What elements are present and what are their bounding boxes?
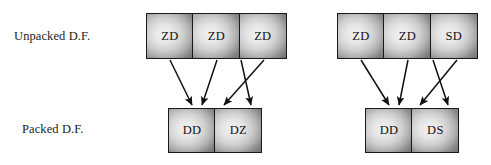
data-cell-label: DS bbox=[427, 123, 444, 138]
data-cell: DZ bbox=[214, 108, 262, 153]
data-cell-label: SD bbox=[446, 29, 463, 44]
data-cell: SD bbox=[430, 13, 478, 59]
data-cell: ZD bbox=[239, 13, 287, 59]
data-cell: DD bbox=[168, 108, 216, 153]
data-cell: DD bbox=[365, 108, 413, 153]
data-cell: ZD bbox=[146, 13, 194, 59]
unpacked-row-right-group: ZD ZD SD bbox=[337, 13, 478, 59]
data-cell-label: ZD bbox=[208, 29, 225, 44]
data-cell: ZD bbox=[383, 13, 431, 59]
data-cell: ZD bbox=[337, 13, 385, 59]
packing-arrows bbox=[170, 60, 457, 105]
packing-arrow bbox=[361, 60, 389, 105]
data-cell-label: DD bbox=[380, 123, 399, 138]
data-cell-label: ZD bbox=[352, 29, 369, 44]
data-cell-label: DZ bbox=[230, 123, 247, 138]
packing-arrow bbox=[433, 60, 448, 105]
data-cell-label: ZD bbox=[254, 29, 271, 44]
data-cell-label: ZD bbox=[399, 29, 416, 44]
packing-arrow bbox=[224, 60, 264, 105]
data-cell-label: ZD bbox=[161, 29, 178, 44]
packing-arrow bbox=[170, 60, 192, 105]
data-cell: ZD bbox=[192, 13, 240, 59]
row-label-unpacked: Unpacked D.F. bbox=[14, 29, 90, 44]
row-label-packed: Packed D.F. bbox=[22, 122, 84, 137]
packed-row-left-group: DD DZ bbox=[168, 108, 262, 153]
packed-row-right-group: DD DS bbox=[365, 108, 459, 153]
unpacked-row-left-group: ZD ZD ZD bbox=[146, 13, 287, 59]
data-cell: DS bbox=[411, 108, 459, 153]
packing-arrow bbox=[399, 60, 408, 105]
packing-arrow bbox=[202, 60, 217, 105]
packing-arrow bbox=[241, 60, 251, 105]
data-cell-label: DD bbox=[183, 123, 202, 138]
packing-arrow bbox=[420, 60, 457, 105]
data-format-packing-diagram: Unpacked D.F. Packed D.F. ZD ZD ZD DD DZ… bbox=[0, 0, 491, 165]
